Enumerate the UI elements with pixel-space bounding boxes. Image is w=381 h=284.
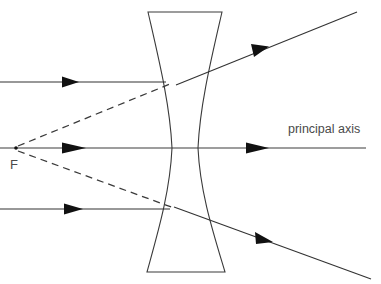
axis-incident-ray-arrowhead [62,143,86,154]
upper-virtual-ray-to-focus [18,84,170,146]
lower-refracted-ray-arrowhead [255,232,273,244]
optics-diagram-svg: F principal axis [0,0,381,284]
concave-lens-body [147,12,225,272]
focal-point-dot [14,146,18,150]
principal-axis-label: principal axis [288,122,360,136]
focal-point-label: F [10,157,18,172]
lower-refracted-ray [174,207,371,279]
upper-refracted-ray-arrowhead [251,44,269,57]
upper-incident-ray-arrowhead [62,77,79,88]
ray-diagram-canvas: F principal axis [0,0,381,284]
upper-refracted-ray [176,12,357,85]
lower-incident-ray-arrowhead [64,204,83,215]
lower-virtual-ray-to-focus [18,151,174,208]
axis-refracted-ray-arrowhead [246,143,269,154]
